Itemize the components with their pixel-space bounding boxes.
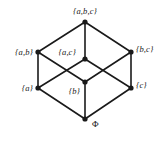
node-label-bc: {b,c} <box>136 45 153 54</box>
lattice-diagram <box>0 0 167 144</box>
lattice-node-bc <box>128 49 133 54</box>
lattice-node-abc <box>82 19 87 24</box>
lattice-node-b <box>82 79 87 84</box>
power-set-lattice-figure: {a,b,c}{a,b}{a,c}{b,c}{a}{b}{c}Φ <box>0 0 167 144</box>
lattice-edge-abc-bc <box>85 22 131 52</box>
lattice-edge-bc-b <box>85 52 131 82</box>
lattice-edge-ac-c <box>85 59 131 88</box>
node-label-b: {b} <box>69 87 80 96</box>
node-label-ab: {a,b} <box>15 48 33 57</box>
node-label-abc: {a,b,c} <box>73 7 97 16</box>
node-label-ac: {a,c} <box>59 48 76 57</box>
node-label-empty: Φ <box>92 120 99 129</box>
edge-group <box>38 22 131 119</box>
lattice-edge-ac-a <box>38 59 85 88</box>
lattice-node-empty <box>82 116 87 121</box>
node-label-c: {c} <box>136 81 147 90</box>
lattice-edge-c-empty <box>85 88 131 119</box>
lattice-node-a <box>35 85 40 90</box>
lattice-node-c <box>128 85 133 90</box>
lattice-node-ac <box>82 56 87 61</box>
lattice-node-ab <box>35 49 40 54</box>
node-label-a: {a} <box>22 84 33 93</box>
